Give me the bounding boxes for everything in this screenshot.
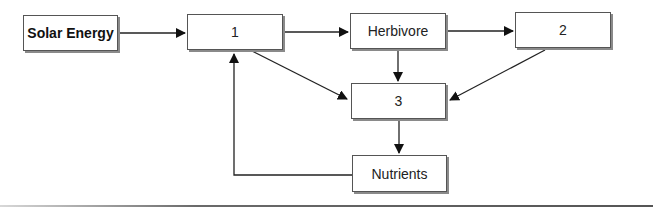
node-label: 1 bbox=[231, 24, 239, 40]
node-label: 3 bbox=[395, 93, 403, 109]
bottom-divider bbox=[0, 205, 653, 207]
node-nutrients: Nutrients bbox=[352, 155, 447, 192]
node-1: 1 bbox=[187, 14, 283, 50]
arrow-2-to-3 bbox=[450, 50, 545, 100]
node-label: Nutrients bbox=[371, 166, 427, 182]
node-2: 2 bbox=[515, 12, 611, 48]
node-label: Solar Energy bbox=[27, 25, 113, 41]
node-3: 3 bbox=[351, 83, 446, 119]
node-solar-energy: Solar Energy bbox=[23, 15, 118, 51]
arrow-1-to-3 bbox=[252, 51, 347, 99]
node-label: Herbivore bbox=[368, 23, 429, 39]
node-label: 2 bbox=[559, 22, 567, 38]
node-herbivore: Herbivore bbox=[350, 13, 446, 49]
